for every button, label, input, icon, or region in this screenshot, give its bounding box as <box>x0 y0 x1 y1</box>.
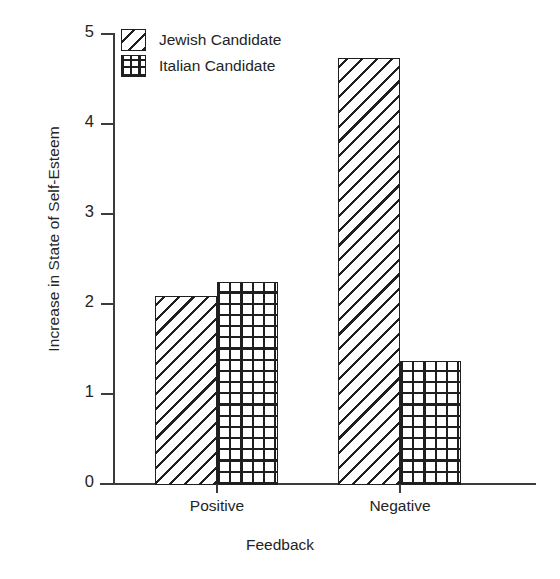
y-tick-label-1: 1 <box>62 382 94 401</box>
y-tick-label-2: 2 <box>62 292 94 311</box>
bar-negative-jewish-candidate <box>338 58 400 485</box>
y-tick-label-0: 0 <box>62 472 94 491</box>
y-axis-title: Increase in State of Self-Esteem <box>45 29 63 449</box>
y-tick-mark-1 <box>101 393 113 395</box>
crosshatch-grid-swatch-icon <box>121 55 146 77</box>
legend-label-italian-candidate: Italian Candidate <box>159 57 275 75</box>
x-tick-mark-negative <box>399 484 401 493</box>
bar-positive-jewish-candidate <box>155 296 217 485</box>
y-tick-label-4: 4 <box>62 112 94 131</box>
y-tick-mark-5 <box>101 33 113 35</box>
x-tick-label-negative: Negative <box>320 497 480 515</box>
legend-item-jewish-candidate: Jewish Candidate <box>121 27 281 53</box>
y-tick-mark-4 <box>101 123 113 125</box>
x-axis-title: Feedback <box>0 536 560 554</box>
bar-negative-italian-candidate <box>400 361 461 485</box>
diagonal-hatch-swatch-icon <box>121 29 146 51</box>
y-tick-mark-3 <box>101 213 113 215</box>
legend: Jewish Candidate Italian Candidate <box>121 27 281 79</box>
y-axis-line <box>113 33 115 484</box>
x-tick-label-positive: Positive <box>137 497 297 515</box>
y-tick-label-5: 5 <box>62 22 94 41</box>
bar-positive-italian-candidate <box>217 282 278 485</box>
y-tick-mark-2 <box>101 303 113 305</box>
legend-item-italian-candidate: Italian Candidate <box>121 53 281 79</box>
bar-chart-figure: Increase in State of Self-Esteem 5 4 3 2… <box>0 0 560 579</box>
legend-label-jewish-candidate: Jewish Candidate <box>159 31 281 49</box>
y-tick-mark-0 <box>101 483 113 485</box>
x-tick-mark-positive <box>216 484 218 493</box>
y-tick-label-3: 3 <box>62 202 94 221</box>
